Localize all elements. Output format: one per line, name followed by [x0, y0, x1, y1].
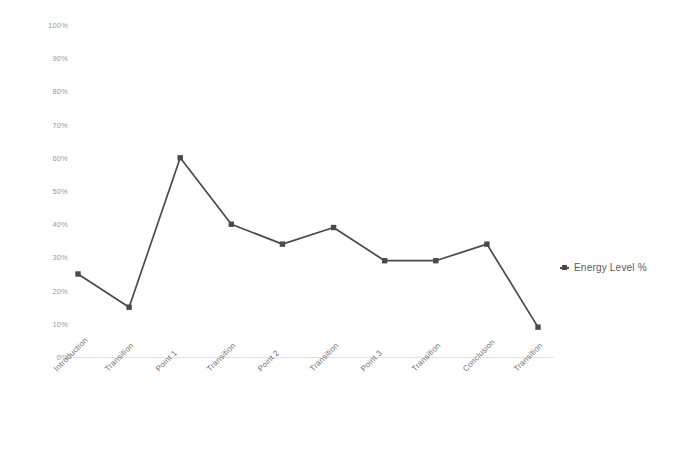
x-axis-tick-label: Transition [205, 341, 237, 373]
x-axis-tick-label: Transition [410, 341, 442, 373]
x-axis: IntroductionTransitionPoint 1TransitionP… [0, 0, 692, 456]
x-axis-tick-label: Transition [512, 341, 544, 373]
x-axis-tick-label: Point 2 [256, 348, 281, 373]
x-axis-tick-label: Transition [308, 341, 340, 373]
x-axis-tick-label: Conclusion [461, 338, 497, 374]
x-axis-tick-label: Transition [103, 341, 135, 373]
chart-legend: Energy Level % [560, 262, 647, 273]
legend-marker-icon [560, 263, 569, 272]
x-axis-tick-label: Introduction [52, 336, 90, 374]
x-axis-tick-label: Point 1 [154, 348, 179, 373]
legend-label: Energy Level % [574, 262, 647, 273]
x-axis-tick-label: Point 3 [359, 348, 384, 373]
line-chart: 0%10%20%30%40%50%60%70%80%90%100% Introd… [0, 0, 692, 456]
